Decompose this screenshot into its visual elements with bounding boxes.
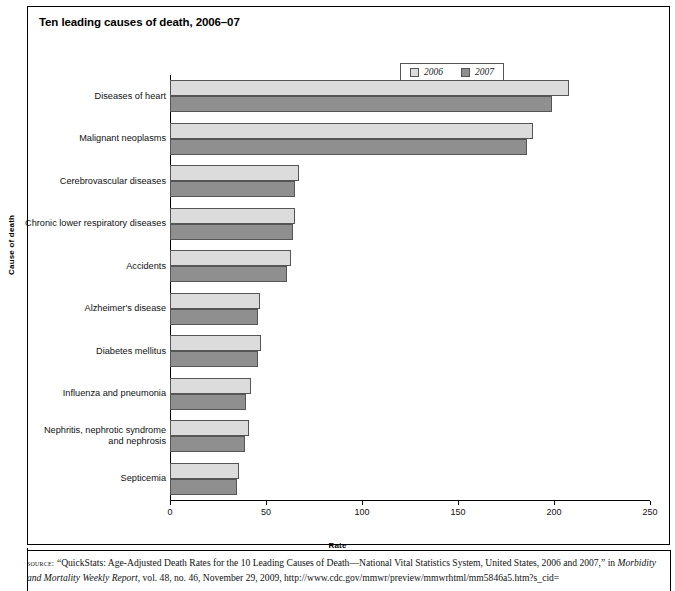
figure-container: Ten leading causes of death, 2006–07 200… xyxy=(27,6,670,545)
bar-2007 xyxy=(170,309,258,325)
bar-2007 xyxy=(170,181,295,197)
y-axis-category-label: Malignant neoplasms xyxy=(0,133,166,144)
bar-2006 xyxy=(170,80,569,96)
bar-2006 xyxy=(170,420,249,436)
y-axis-category-label: Accidents xyxy=(0,261,166,272)
bar-2007 xyxy=(170,224,293,240)
y-axis-category-label: Cerebrovascular diseases xyxy=(0,176,166,187)
x-axis-tick-label: 250 xyxy=(642,507,657,517)
bar-2006 xyxy=(170,463,239,479)
x-axis-tick-label: 0 xyxy=(167,507,172,517)
source-line-1: “QuickStats: Age-Adjusted Death Rates fo… xyxy=(57,557,605,568)
x-axis-tick-label: 100 xyxy=(354,507,369,517)
x-axis-tick-label: 50 xyxy=(261,507,271,517)
bar-2006 xyxy=(170,165,299,181)
bar-2007 xyxy=(170,479,237,495)
x-axis-tick-label: 150 xyxy=(450,507,465,517)
bar-2006 xyxy=(170,378,251,394)
x-axis-line xyxy=(170,500,650,501)
bar-2007 xyxy=(170,96,552,112)
source-label: source: xyxy=(27,558,54,568)
bar-2007 xyxy=(170,266,287,282)
source-note: source: “QuickStats: Age-Adjusted Death … xyxy=(27,556,671,585)
x-axis-tick-label: 200 xyxy=(546,507,561,517)
x-axis-tick xyxy=(362,501,363,505)
bar-2006 xyxy=(170,250,291,266)
x-axis-tick xyxy=(650,501,651,505)
bar-2007 xyxy=(170,351,258,367)
x-axis-tick xyxy=(170,501,171,505)
bar-2007 xyxy=(170,139,527,155)
x-axis-tick xyxy=(554,501,555,505)
x-axis-tick xyxy=(266,501,267,505)
y-axis-category-label: Nephritis, nephrotic syndromeand nephros… xyxy=(0,425,166,447)
y-axis-category-label: Diseases of heart xyxy=(0,91,166,102)
bar-2006 xyxy=(170,123,533,139)
bar-2006 xyxy=(170,208,295,224)
bar-2007 xyxy=(170,436,245,452)
y-axis-category-label: Influenza and pneumonia xyxy=(0,388,166,399)
y-axis-category-label: Alzheimer's disease xyxy=(0,303,166,314)
bar-2007 xyxy=(170,394,246,410)
bar-2006 xyxy=(170,293,260,309)
y-axis-category-label: Septicemia xyxy=(0,473,166,484)
y-axis-category-label: Diabetes mellitus xyxy=(0,346,166,357)
x-axis-title: Rate xyxy=(0,541,675,550)
bar-2006 xyxy=(170,335,261,351)
plot-area: Cause of death Diseases of heartMalignan… xyxy=(28,7,671,546)
y-axis-category-label: Chronic lower respiratory diseases xyxy=(0,218,166,229)
source-divider xyxy=(27,550,671,551)
source-line-2-suffix: , vol. 48, no. 46, November 29, 2009, ht… xyxy=(138,572,560,583)
figure-page: Ten leading causes of death, 2006–07 200… xyxy=(0,0,675,591)
source-line-2-prefix: in xyxy=(608,557,618,568)
x-axis-tick xyxy=(458,501,459,505)
